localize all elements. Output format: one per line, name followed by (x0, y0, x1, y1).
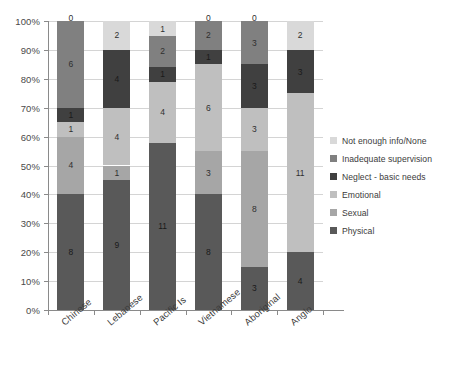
bar-segment[interactable]: 9 (103, 180, 130, 310)
bar-segment-value: 8 (69, 248, 74, 257)
bar-segment[interactable]: 6 (195, 64, 222, 151)
y-tick-label: 50% (21, 160, 40, 171)
y-tick-label: 100% (15, 16, 40, 27)
legend-item[interactable]: Emotional (330, 186, 458, 203)
bar-segment-value: 3 (252, 38, 257, 47)
bar-segment[interactable]: 2 (149, 36, 176, 66)
bar-segment-value: 3 (206, 168, 211, 177)
y-tick-label: 70% (21, 102, 40, 113)
bar-segment-value: 2 (206, 31, 211, 40)
bar-segment[interactable]: 1 (57, 122, 84, 136)
legend-swatch-icon (330, 227, 337, 234)
bar-segment-value: 4 (298, 277, 303, 286)
y-tick-label: 60% (21, 131, 40, 142)
legend-label: Physical (342, 226, 374, 236)
legend-item[interactable]: Neglect - basic needs (330, 168, 458, 185)
bar-segment[interactable]: 8 (241, 151, 268, 267)
bar-segment[interactable]: 2 (103, 21, 130, 50)
bar-segment[interactable]: 4 (287, 252, 314, 310)
x-axis-labels: ChineseLebanesePacific IsVietnameseAbori… (0, 313, 460, 369)
bar-segment-value: 3 (252, 284, 257, 293)
legend-item[interactable]: Sexual (330, 204, 458, 221)
y-tick-label: 80% (21, 73, 40, 84)
bar-segment[interactable]: 8 (57, 194, 84, 310)
bar-segment-value: 9 (114, 241, 119, 250)
bar-segment-value: 4 (114, 75, 119, 84)
bar-segment[interactable]: 1 (149, 67, 176, 82)
bar-segment-value: 3 (252, 82, 257, 91)
y-tick-label: 30% (21, 218, 40, 229)
bar-segment-value: 1 (160, 24, 165, 33)
bar-segment-value: 8 (206, 248, 211, 257)
bar-segment-value: 1 (206, 53, 211, 62)
legend-item[interactable]: Not enough info/None (330, 132, 458, 149)
bar-segment-value: 1 (69, 125, 74, 134)
bar-segment-value: 0 (69, 14, 74, 23)
bar-segment-value: 0 (206, 14, 211, 23)
bar-segment-value: 2 (160, 47, 165, 56)
stacked-bar-chart: 100%90%80%70%60%50%40%30%20%10%0% 841160… (0, 0, 460, 369)
bar-column[interactable]: 914402 (103, 21, 130, 310)
legend-label: Emotional (342, 190, 381, 200)
bar-segment[interactable]: 3 (241, 21, 268, 64)
bar-segment-value: 8 (252, 205, 257, 214)
bar-segment-value: 3 (252, 125, 257, 134)
bar-segment-value: 2 (114, 31, 119, 40)
bar-segment[interactable]: 11 (149, 143, 176, 310)
bar-segment-value: 6 (206, 103, 211, 112)
bars-layer: 84116091440211041218361203833304011302 (48, 21, 323, 310)
bar-column[interactable]: 836120 (195, 21, 222, 310)
bar-segment-value: 0 (252, 14, 257, 23)
bar-segment-value: 11 (296, 168, 305, 177)
bar-segment[interactable]: 4 (57, 137, 84, 195)
y-tick-label: 10% (21, 276, 40, 287)
bar-column[interactable]: 4011302 (287, 21, 314, 310)
bar-column[interactable]: 383330 (241, 21, 268, 310)
bar-segment-value: 2 (298, 31, 303, 40)
legend-label: Not enough info/None (342, 136, 427, 146)
bar-segment[interactable]: 3 (241, 64, 268, 107)
legend-label: Inadequate supervision (342, 154, 432, 164)
bar-segment-value: 6 (69, 60, 74, 69)
bar-segment-value: 1 (114, 168, 119, 177)
bar-column[interactable]: 1104121 (149, 21, 176, 310)
legend-item[interactable]: Physical (330, 222, 458, 239)
bar-segment[interactable]: 4 (103, 108, 130, 166)
legend-label: Neglect - basic needs (342, 172, 426, 182)
legend-swatch-icon (330, 173, 337, 180)
bar-column[interactable]: 841160 (57, 21, 84, 310)
bar-segment[interactable]: 1 (149, 21, 176, 36)
bar-segment[interactable]: 3 (241, 108, 268, 151)
chart-legend: Not enough info/NoneInadequate supervisi… (330, 132, 458, 240)
bar-segment-value: 11 (158, 222, 167, 231)
bar-segment[interactable]: 1 (103, 166, 130, 180)
bar-segment[interactable]: 2 (195, 21, 222, 50)
bar-segment-value: 4 (69, 161, 74, 170)
bar-segment[interactable]: 2 (287, 21, 314, 50)
bar-segment[interactable]: 6 (57, 21, 84, 108)
y-tick-label: 90% (21, 44, 40, 55)
legend-label: Sexual (342, 208, 369, 218)
bar-segment[interactable]: 4 (149, 82, 176, 143)
bar-segment-value: 1 (69, 111, 74, 120)
bar-segment[interactable]: 11 (287, 93, 314, 252)
y-axis: 100%90%80%70%60%50%40%30%20%10%0% (0, 21, 44, 310)
y-tick-label: 40% (21, 189, 40, 200)
legend-item[interactable]: Inadequate supervision (330, 150, 458, 167)
bar-segment[interactable]: 3 (195, 151, 222, 194)
bar-segment-value: 4 (160, 108, 165, 117)
bar-segment[interactable]: 4 (103, 50, 130, 108)
bar-segment-value: 4 (114, 132, 119, 141)
legend-swatch-icon (330, 137, 337, 144)
bar-segment-value: 3 (298, 67, 303, 76)
bar-segment[interactable]: 1 (57, 108, 84, 122)
bar-segment[interactable]: 8 (195, 194, 222, 310)
bar-segment-value: 1 (160, 70, 165, 79)
legend-swatch-icon (330, 209, 337, 216)
legend-swatch-icon (330, 155, 337, 162)
bar-segment[interactable]: 1 (195, 50, 222, 64)
bar-segment[interactable]: 3 (287, 50, 314, 93)
y-tick-label: 20% (21, 247, 40, 258)
legend-swatch-icon (330, 191, 337, 198)
